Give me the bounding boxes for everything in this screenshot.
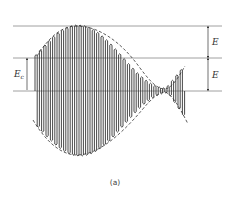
carrier-cycles [35,25,185,156]
am-waveform-diagram: Ec E E (a) [0,0,239,197]
reference-lines [13,26,222,91]
ec-label: Ec [13,69,25,80]
lower-e-label: E [211,70,219,80]
carrier-waveform [35,25,185,156]
upper-e-label: E [211,37,219,47]
figure-caption: (a) [110,178,121,187]
lower-envelope [33,92,188,155]
